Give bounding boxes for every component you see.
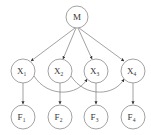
edges-x-to-x bbox=[34, 76, 124, 92]
node-x4: X4 bbox=[121, 59, 145, 83]
node-x2: X2 bbox=[48, 59, 72, 83]
node-f1: F1 bbox=[11, 105, 35, 129]
node-x1: X1 bbox=[11, 59, 35, 83]
node-m-label: M bbox=[73, 12, 81, 22]
node-f4: F4 bbox=[121, 105, 145, 129]
edge-m-x1 bbox=[31, 28, 75, 61]
edge-m-x2 bbox=[63, 28, 76, 59]
graphical-model-diagram: M X1 X2 X3 X4 F1 F2 F3 F4 bbox=[0, 0, 151, 135]
node-m: M bbox=[66, 6, 88, 28]
node-f2: F2 bbox=[48, 105, 72, 129]
edges-m-to-x bbox=[31, 28, 124, 61]
node-x3: X3 bbox=[84, 59, 108, 83]
node-f3: F3 bbox=[84, 105, 108, 129]
edges-x-to-f bbox=[23, 83, 133, 104]
